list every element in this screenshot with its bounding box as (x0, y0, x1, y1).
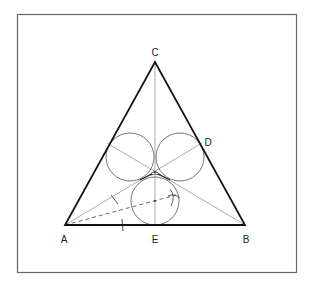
label-d: D (204, 137, 211, 148)
label-c: C (151, 47, 158, 58)
label-b: B (243, 234, 250, 245)
bottom-center-dot (154, 200, 156, 202)
centroid-dot (154, 171, 156, 173)
label-e: E (152, 234, 159, 245)
label-a: A (61, 234, 68, 245)
geometry-diagram: A B C D E (0, 0, 314, 282)
